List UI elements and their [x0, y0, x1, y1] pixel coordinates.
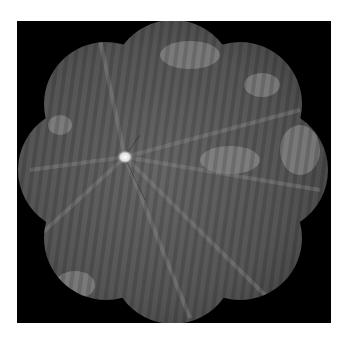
- optic-disc: [117, 150, 133, 164]
- fundus-image: [0, 0, 346, 345]
